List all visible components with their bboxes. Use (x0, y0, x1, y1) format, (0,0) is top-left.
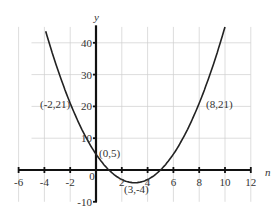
y-tick-label: 10 (81, 132, 93, 144)
point-annotation: (0,5) (99, 147, 120, 160)
x-tick-label: -6 (14, 176, 24, 188)
y-tick-label: 40 (81, 37, 93, 49)
x-axis-label: n (265, 166, 271, 178)
point-annotation: (3,-4) (124, 183, 149, 196)
parabola-chart: -6-4-2024681012-1010203040 (-2,21)(0,5)(… (0, 0, 276, 213)
x-tick-label: 10 (220, 176, 232, 188)
axis-ticks (19, 43, 251, 202)
x-tick-label: 8 (196, 176, 202, 188)
y-tick-label: -10 (77, 196, 92, 208)
y-tick-label: 20 (81, 100, 93, 112)
x-tick-label: 6 (171, 176, 177, 188)
x-tick-label: 12 (245, 176, 256, 188)
x-tick-label: -4 (40, 176, 50, 188)
axes (19, 25, 251, 201)
x-tick-label: -2 (66, 176, 75, 188)
point-annotation: (-2,21) (40, 98, 71, 111)
x-tick-label: 0 (89, 170, 95, 182)
parabola-curve (46, 27, 225, 183)
y-tick-label: 30 (81, 69, 93, 81)
grid-lines (19, 27, 251, 202)
point-annotation: (8,21) (206, 98, 233, 111)
y-axis-label: y (93, 11, 99, 23)
